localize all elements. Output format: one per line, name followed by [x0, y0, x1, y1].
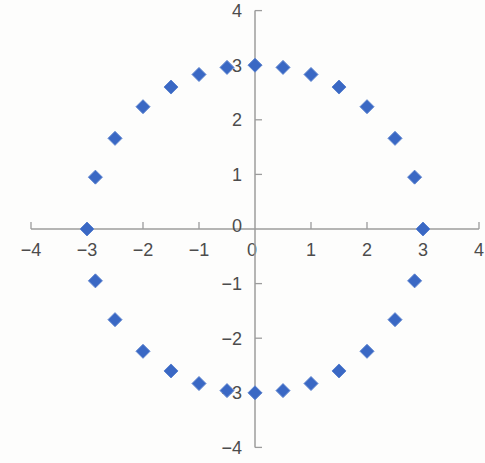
y-tick-label: 0 [232, 216, 242, 236]
x-tick-label: −4 [21, 240, 42, 260]
scatter-chart-canvas: −4−3−2−101234−4−3−2−101234 [0, 0, 485, 463]
data-point-marker [164, 364, 178, 378]
data-point-marker [408, 274, 422, 288]
y-tick-label: 4 [232, 1, 242, 21]
data-point-marker [388, 313, 402, 327]
data-point-marker [108, 313, 122, 327]
figure-page: −4−3−2−101234−4−3−2−101234 [0, 0, 485, 463]
y-tick-label: 3 [232, 56, 242, 76]
data-point-marker [332, 364, 346, 378]
data-point-marker [276, 60, 290, 74]
data-point-marker [332, 80, 346, 94]
data-point-marker [360, 100, 374, 114]
data-point-marker [248, 386, 262, 400]
data-point-marker [136, 100, 150, 114]
data-point-marker [88, 274, 102, 288]
data-point-marker [88, 170, 102, 184]
x-tick-label: 1 [306, 240, 316, 260]
data-point-marker [416, 222, 430, 236]
x-tick-label: 4 [474, 240, 484, 260]
data-point-marker [108, 131, 122, 145]
y-tick-label: −2 [221, 329, 242, 349]
x-tick-label: −3 [77, 240, 98, 260]
data-point-marker [360, 344, 374, 358]
x-tick-label: 3 [418, 240, 428, 260]
data-point-marker [304, 377, 318, 391]
data-point-marker [248, 58, 262, 72]
data-point-marker [388, 131, 402, 145]
data-point-marker [136, 344, 150, 358]
data-point-marker [192, 67, 206, 81]
x-tick-label: −2 [133, 240, 154, 260]
y-tick-label: 1 [232, 165, 242, 185]
data-point-marker [276, 384, 290, 398]
data-point-marker [164, 80, 178, 94]
x-tick-label: −1 [189, 240, 210, 260]
data-point-marker [304, 67, 318, 81]
y-tick-label: 2 [232, 110, 242, 130]
data-point-marker [408, 170, 422, 184]
data-point-marker [192, 377, 206, 391]
data-point-marker [80, 222, 94, 236]
x-tick-label: 2 [362, 240, 372, 260]
y-tick-label: −1 [221, 274, 242, 294]
y-tick-label: −4 [221, 438, 242, 458]
